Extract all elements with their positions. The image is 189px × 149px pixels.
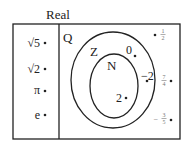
fraction-numerator: 3 (163, 112, 166, 118)
natural-item: 2 (116, 91, 122, 105)
fraction-denominator: 4 (163, 81, 166, 87)
fraction-one-half: 1 2 (154, 28, 166, 41)
real-title: Real (46, 7, 70, 22)
irrational-item: √2 (27, 62, 40, 76)
point-dot (44, 42, 47, 45)
integer-item: 0 (126, 43, 132, 57)
fraction-numerator: 1 (162, 28, 165, 34)
number-sets-venn-diagram: Real √5 √2 π e Q Z N 0 −2 2 1 2 7 4 (0, 0, 189, 149)
fraction-seven-fourths: 7 4 (162, 74, 173, 87)
fraction-denominator: 2 (162, 35, 165, 41)
point-dot (154, 34, 157, 37)
integers-label: Z (90, 44, 98, 59)
irrational-item: π (34, 83, 40, 97)
irrational-items: √5 √2 π e (27, 36, 46, 122)
point-dot (44, 114, 47, 117)
point-dot (170, 80, 173, 83)
point-dot (44, 90, 47, 93)
point-dot (146, 80, 149, 83)
fraction-numerator: 7 (163, 74, 166, 80)
point-dot (44, 68, 47, 71)
point-dot (134, 55, 137, 58)
fraction-sign: − (153, 115, 158, 124)
point-dot (125, 97, 128, 100)
point-dot (170, 119, 173, 122)
rational-label: Q (63, 30, 73, 45)
fraction-denominator: 5 (163, 119, 166, 125)
fraction-negative-three-fifths: − 3 5 (153, 112, 172, 125)
irrational-item: √5 (27, 36, 40, 50)
irrational-item: e (35, 108, 40, 122)
naturals-label: N (107, 58, 117, 73)
